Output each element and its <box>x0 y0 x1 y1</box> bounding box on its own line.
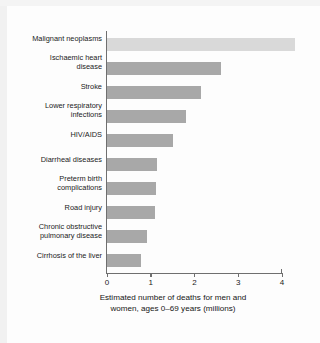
bar <box>107 254 141 267</box>
x-axis-tick-label: 1 <box>141 278 161 287</box>
bar-category-label: Ischaemic heart disease <box>0 53 102 71</box>
bar <box>107 86 201 99</box>
bar-row: Stroke <box>0 81 320 103</box>
bar-row: Diarrheal diseases <box>0 154 320 176</box>
y-axis-line <box>106 31 107 274</box>
bar-row: Ischaemic heart disease <box>0 57 320 79</box>
chart-figure: Malignant neoplasmsIschaemic heart disea… <box>0 0 320 343</box>
bar <box>107 158 157 171</box>
bar-category-label: Road injury <box>0 203 102 212</box>
bar <box>107 230 147 243</box>
bar-row: Malignant neoplasms <box>0 33 320 55</box>
bar-chart-plot-area: Malignant neoplasmsIschaemic heart disea… <box>0 0 320 343</box>
x-axis-tick-label: 4 <box>272 278 292 287</box>
bar-category-label: Cirrhosis of the liver <box>0 251 102 260</box>
bar-row: Road injury <box>0 202 320 224</box>
bar-category-label: HIV/AIDS <box>0 130 102 139</box>
bar <box>107 206 155 219</box>
bar-category-label: Diarrheal diseases <box>0 155 102 164</box>
bar-row: Chronic obstructive pulmonary disease <box>0 226 320 248</box>
x-axis-tick <box>150 273 151 277</box>
bar <box>107 38 295 51</box>
bar <box>107 110 186 123</box>
bar-category-label: Chronic obstructive pulmonary disease <box>0 222 102 240</box>
x-axis-caption: Estimated number of deaths for men and w… <box>62 292 284 314</box>
x-axis-tick-label: 3 <box>228 278 248 287</box>
x-axis-tick-label: 2 <box>185 278 205 287</box>
bar-row: Preterm birth complications <box>0 178 320 200</box>
caption-line-2: women, ages 0–69 years (millions) <box>62 303 284 314</box>
bar-category-label: Stroke <box>0 82 102 91</box>
bar-category-label: Lower respiratory infections <box>0 101 102 119</box>
bar-row: Cirrhosis of the liver <box>0 250 320 272</box>
bar <box>107 62 221 75</box>
x-axis-tick <box>194 273 195 277</box>
bar-row: Lower respiratory infections <box>0 105 320 127</box>
x-axis-tick-label: 0 <box>97 278 117 287</box>
bar <box>107 182 156 195</box>
bar-category-label: Preterm birth complications <box>0 174 102 192</box>
x-axis-tick <box>282 273 283 277</box>
bar-row: HIV/AIDS <box>0 129 320 151</box>
x-axis-tick <box>238 273 239 277</box>
bar <box>107 134 173 147</box>
bar-category-label: Malignant neoplasms <box>0 34 102 43</box>
caption-line-1: Estimated number of deaths for men and <box>62 292 284 303</box>
x-axis-tick <box>107 273 108 277</box>
